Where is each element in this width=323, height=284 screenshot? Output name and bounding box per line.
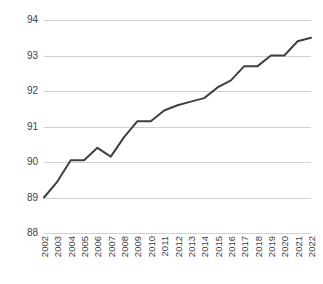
x-tick-label-2012: 2012 — [173, 236, 184, 257]
x-tick-label-2017: 2017 — [239, 236, 250, 257]
x-axis-tick-labels: 2002200320042005200620072008200920102011… — [44, 236, 311, 284]
x-tick-label-2014: 2014 — [199, 236, 210, 257]
x-tick-label-2004: 2004 — [66, 236, 77, 257]
x-tick-label-2008: 2008 — [119, 236, 130, 257]
series-line-1 — [44, 38, 311, 198]
x-tick-label-2002: 2002 — [39, 236, 50, 257]
y-tick-label-88: 88 — [8, 228, 38, 238]
series-line-group — [44, 20, 311, 233]
y-tick-label-93: 93 — [8, 51, 38, 61]
x-tick-label-2020: 2020 — [279, 236, 290, 257]
x-tick-label-2011: 2011 — [159, 236, 170, 256]
y-axis-tick-labels: 94939291908988 — [0, 0, 38, 284]
x-tick-label-2018: 2018 — [253, 236, 264, 257]
plot-area — [44, 20, 311, 233]
x-tick-label-2009: 2009 — [132, 236, 143, 257]
gridline-88 — [44, 233, 311, 234]
y-tick-label-92: 92 — [8, 86, 38, 96]
x-tick-label-2016: 2016 — [226, 236, 237, 257]
x-tick-label-2015: 2015 — [213, 236, 224, 257]
x-tick-label-2010: 2010 — [146, 236, 157, 257]
y-tick-label-90: 90 — [8, 157, 38, 167]
x-tick-label-2022: 2022 — [306, 236, 317, 257]
x-tick-label-2003: 2003 — [52, 236, 63, 257]
x-tick-label-2006: 2006 — [92, 236, 103, 257]
y-tick-label-91: 91 — [8, 122, 38, 132]
x-tick-label-2019: 2019 — [266, 236, 277, 257]
y-tick-label-89: 89 — [8, 193, 38, 203]
line-chart: 94939291908988 2002200320042005200620072… — [0, 0, 323, 284]
x-tick-label-2021: 2021 — [293, 236, 304, 257]
x-tick-label-2013: 2013 — [186, 236, 197, 257]
y-tick-label-94: 94 — [8, 15, 38, 25]
x-tick-label-2007: 2007 — [106, 236, 117, 257]
x-tick-label-2005: 2005 — [79, 236, 90, 257]
